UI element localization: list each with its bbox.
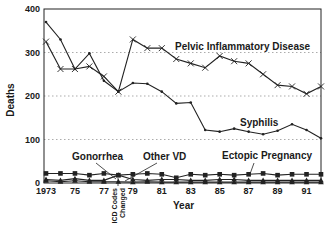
x-tick-label: 91: [302, 186, 312, 196]
square-marker: [217, 172, 222, 177]
dot-marker: [305, 129, 308, 132]
dot-marker: [103, 79, 106, 82]
syphilis-label: Syphilis: [240, 117, 279, 128]
chart-svg: 01002003004001973757779818385878991 Deat…: [0, 0, 328, 235]
x-tick-label: 75: [70, 186, 80, 196]
square-marker: [58, 171, 63, 176]
icd-annotation-line2: Changed: [119, 188, 127, 218]
x-tick-label: 81: [157, 186, 167, 196]
x-marker: [260, 71, 266, 77]
y-tick-label: 400: [25, 4, 40, 14]
dot-marker: [146, 83, 149, 86]
dot-marker: [160, 90, 163, 93]
deaths-line-chart: 01002003004001973757779818385878991 Deat…: [0, 0, 328, 235]
x-tick-label: 79: [128, 186, 138, 196]
square-marker: [304, 172, 309, 177]
square-marker: [275, 173, 280, 178]
x-tick-label: 83: [186, 186, 196, 196]
dot-marker: [45, 21, 48, 24]
other-vd-label: Other VD: [143, 151, 186, 162]
x-tick-label: 77: [99, 186, 109, 196]
square-marker: [73, 171, 78, 176]
square-marker: [145, 171, 150, 176]
dot-marker: [59, 38, 62, 41]
x-marker: [202, 65, 208, 71]
dot-marker: [262, 133, 265, 136]
series-ectopic-pregnancy: [44, 171, 324, 180]
square-marker: [87, 173, 92, 178]
pid-label: Pelvic Inflammatory Disease: [175, 41, 311, 52]
square-marker: [203, 173, 208, 178]
x-marker: [304, 91, 310, 97]
series-syphilis: [45, 21, 323, 140]
x-tick-label: 85: [215, 186, 225, 196]
dot-marker: [74, 68, 77, 71]
square-marker: [102, 171, 107, 176]
dot-marker: [320, 137, 323, 140]
dot-marker: [247, 130, 250, 133]
dot-marker: [276, 130, 279, 133]
gonorrhea-callout-line: [96, 163, 116, 179]
ectopic-label: Ectopic Pregnancy: [222, 150, 312, 161]
dot-marker: [117, 90, 120, 93]
y-axis-label: Deaths: [5, 83, 16, 117]
square-marker: [290, 172, 295, 177]
dot-marker: [218, 130, 221, 133]
square-marker: [188, 172, 193, 177]
y-tick-label: 300: [25, 48, 40, 58]
x-marker: [188, 60, 194, 66]
square-marker: [261, 171, 266, 176]
x-marker: [130, 36, 136, 42]
dot-marker: [132, 82, 135, 85]
icd-annotation-line1: ICD Codes: [111, 188, 118, 224]
tick-labels: 01002003004001973757779818385878991: [25, 4, 312, 196]
triangle-marker: [72, 176, 78, 181]
dot-marker: [291, 123, 294, 126]
square-marker: [319, 172, 324, 177]
x-axis-label: Year: [173, 200, 194, 211]
x-tick-label: 87: [244, 186, 254, 196]
dot-marker: [88, 52, 91, 55]
series-other-vd: [43, 172, 324, 182]
x-marker: [217, 53, 223, 59]
dot-marker: [175, 102, 178, 105]
dot-marker: [233, 127, 236, 130]
x-tick-label: 89: [273, 186, 283, 196]
gonorrhea-label: Gonorrhea: [72, 151, 124, 162]
square-marker: [44, 171, 49, 176]
ectopic-callout-line: [250, 163, 254, 174]
y-tick-label: 100: [25, 135, 40, 145]
y-tick-label: 200: [25, 91, 40, 101]
dot-marker: [189, 101, 192, 104]
square-marker: [159, 172, 164, 177]
x-marker: [173, 56, 179, 62]
other-vd-callout-line: [125, 163, 157, 181]
dot-marker: [204, 129, 207, 132]
x-tick-label: 1973: [36, 186, 56, 196]
gridlines: [44, 53, 321, 140]
